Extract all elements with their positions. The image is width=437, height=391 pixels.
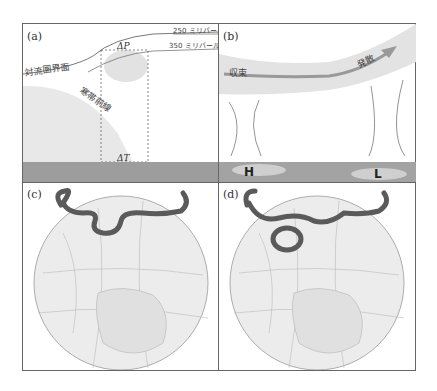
panel-c-globe [23, 183, 218, 370]
label-delta-p: ΔP [116, 41, 130, 51]
panel-a-diagram: 250 ミリバール 350 ミリバール 対流圏界面 寒帯前線 ΔP ΔT [23, 24, 218, 182]
label-high: H [244, 165, 254, 179]
label-low: L [374, 167, 382, 181]
panel-d-label: (d) [223, 188, 239, 201]
panel-d: (d) [219, 183, 416, 370]
label-tropopause: 対流圏界面 [24, 61, 70, 78]
panel-c-label: (c) [27, 188, 42, 201]
panel-b: 収束 発散 H L (b) [219, 24, 416, 182]
panel-a: 250 ミリバール 350 ミリバール 対流圏界面 寒帯前線 ΔP ΔT (a) [23, 24, 218, 182]
panel-a-label: (a) [27, 30, 42, 43]
panel-d-globe [219, 183, 416, 370]
label-delta-t: ΔT [116, 153, 130, 163]
label-350mb: 350 ミリバール [169, 42, 218, 50]
panel-b-diagram: 収束 発散 H L [219, 24, 416, 182]
label-250mb: 250 ミリバール [173, 27, 218, 35]
label-convergence: 収束 [229, 67, 247, 78]
panel-c: (c) [23, 183, 218, 370]
panel-b-label: (b) [223, 30, 239, 43]
